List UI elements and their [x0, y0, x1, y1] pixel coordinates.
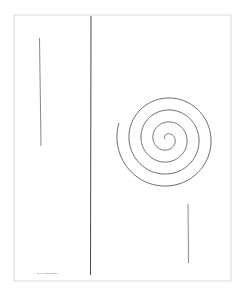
artwork-canvas — [0, 0, 244, 290]
line-group — [40, 16, 189, 275]
right-short-line — [188, 204, 189, 263]
center-vertical-line — [91, 16, 92, 275]
artist-caption: © Jill Kalman Studio — [34, 272, 57, 275]
left-short-line — [40, 38, 42, 146]
spiral-shape — [117, 98, 211, 186]
